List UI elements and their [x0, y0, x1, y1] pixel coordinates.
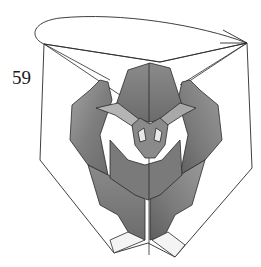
fold-arrow-icon: [35, 17, 247, 44]
origami-diagram: [0, 0, 261, 267]
